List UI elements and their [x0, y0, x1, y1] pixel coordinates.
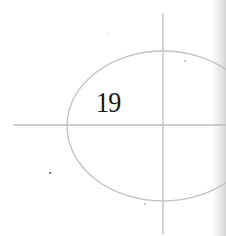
- scanned-page: 19: [0, 0, 226, 236]
- speck-dot: [184, 60, 186, 62]
- figure-number-label: 19: [96, 88, 120, 117]
- ellipse-crosshair-figure: [0, 0, 226, 236]
- speck-dot: [106, 32, 107, 33]
- speck-dot: [144, 203, 146, 205]
- ellipse-outline: [67, 51, 226, 201]
- speck-dot: [49, 172, 51, 174]
